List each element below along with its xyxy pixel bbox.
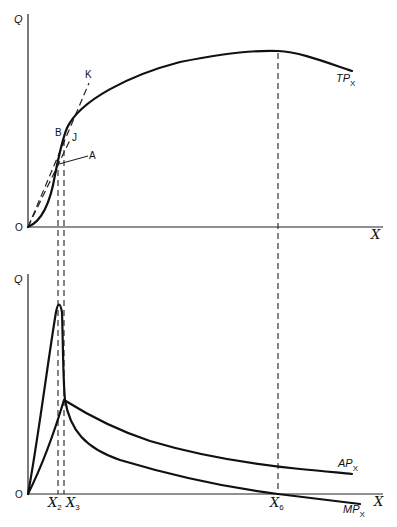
guide-lines [58,53,278,494]
top-y-axis-label: Q [14,13,23,25]
tp-label: TPX [336,72,356,88]
tick-x6: X6 [269,495,284,512]
ap-curve [28,400,352,494]
tick-x3: X3 [65,495,80,512]
mp-curve [28,305,360,505]
tick-x2: X2 [47,495,62,512]
label-a: A [89,150,96,161]
production-function-diagram: Q O X K J TPX B A Q O X [0,0,397,527]
bottom-x-axis-label: X [373,494,384,509]
top-panel: Q O X K J TPX B A [14,13,383,242]
leader-a [59,156,88,164]
mp-label: MPX [343,503,366,519]
bottom-y-axis-label: Q [14,273,23,285]
label-b: B [55,127,62,138]
bottom-panel: Q O X APX MPX X2 X3 X6 [14,273,384,519]
top-x-axis-label: X [370,227,381,242]
ap-label: APX [337,457,359,473]
bottom-origin-label: O [15,489,23,500]
top-origin-label: O [15,222,23,233]
label-j: J [72,132,77,143]
label-k: K [85,69,92,80]
